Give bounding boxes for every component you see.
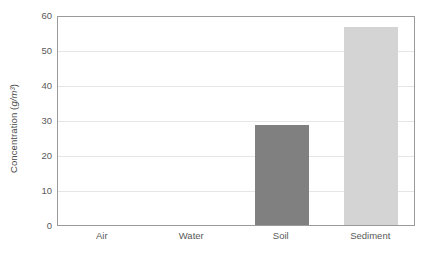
x-axis-tick-labels: AirWaterSoilSediment [57, 230, 415, 248]
plot-area [57, 16, 415, 226]
y-axis-tick-label: 60 [28, 11, 52, 21]
y-axis-title-units: g/m³ [8, 87, 19, 106]
y-axis-tick-label: 20 [28, 151, 52, 161]
y-axis-tick-labels: 0102030405060 [28, 0, 52, 257]
bar-soil [255, 125, 309, 225]
y-axis-title-text: Concentration ( [8, 107, 19, 173]
x-axis-tick-label: Air [96, 230, 108, 241]
y-axis-tick-label: 30 [28, 116, 52, 126]
x-axis-tick-label: Sediment [350, 230, 390, 241]
bar-chart: Concentration (g/m³) 0102030405060 AirWa… [0, 0, 428, 257]
x-axis-tick-label: Soil [273, 230, 289, 241]
x-axis-tick-label: Water [179, 230, 204, 241]
y-axis-tick-label: 0 [28, 221, 52, 231]
y-axis-title: Concentration (g/m³) [0, 0, 26, 257]
y-axis-tick-label: 40 [28, 81, 52, 91]
y-axis-tick-label: 10 [28, 186, 52, 196]
bar-sediment [344, 27, 398, 225]
y-axis-tick-label: 50 [28, 46, 52, 56]
bars-layer [58, 17, 414, 225]
y-axis-title-paren: ) [8, 84, 19, 87]
